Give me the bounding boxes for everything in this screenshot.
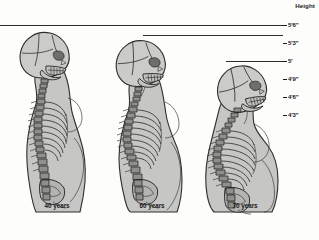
height-axis-title: Height [295,2,315,9]
figure-40-years: 40 years [8,26,104,214]
age-label-40-years: 40 years [22,202,92,209]
figure-70-years: 70 years [196,62,294,214]
age-label-70-years: 70 years [210,202,280,209]
height-tick-dash-5-6 [283,25,287,26]
figure-60-years: 60 years [103,36,199,214]
age-label-60-years: 60 years [117,202,187,209]
height-loss-illustration: Height 5'6" 5'3" 5' 4'9" 4'6" 4'3" [0,0,319,240]
height-tick-label-5-6: 5'6" [288,22,299,28]
height-tick-label-5-3: 5'3" [288,40,299,46]
height-tick-dash-5-3 [283,43,287,44]
